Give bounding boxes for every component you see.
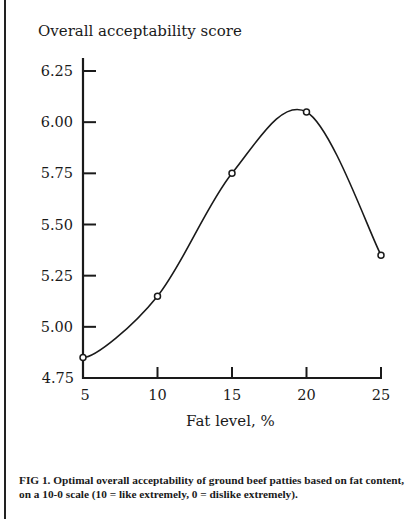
data-point-marker (378, 252, 384, 258)
axes (82, 58, 382, 379)
data-curve (83, 109, 381, 357)
y-tick-label: 4.75 (42, 370, 74, 386)
data-point-marker (80, 355, 86, 361)
x-tick-label: 25 (372, 387, 390, 403)
x-axis-ticks: 510152025 (80, 367, 390, 403)
y-axis-ticks: 4.755.005.255.505.756.006.25 (41, 63, 96, 386)
data-point-marker (304, 109, 310, 115)
y-tick-label: 5.00 (41, 319, 73, 335)
line-chart: 4.755.005.255.505.756.006.25 510152025 (0, 0, 420, 519)
data-point-marker (155, 293, 161, 299)
x-axis-title: Fat level, % (186, 412, 275, 430)
y-tick-label: 5.50 (41, 217, 73, 233)
y-tick-label: 5.25 (41, 268, 73, 284)
x-tick-label: 10 (148, 387, 166, 403)
x-tick-label: 20 (297, 387, 315, 403)
data-point-marker (229, 170, 235, 176)
x-tick-label: 15 (223, 387, 241, 403)
figure-caption: FIG 1. Optimal overall acceptability of … (19, 473, 414, 501)
y-tick-label: 6.25 (41, 63, 73, 79)
data-markers (80, 109, 384, 361)
x-tick-label: 5 (80, 387, 89, 403)
y-tick-label: 6.00 (41, 114, 73, 130)
y-tick-label: 5.75 (41, 165, 73, 181)
